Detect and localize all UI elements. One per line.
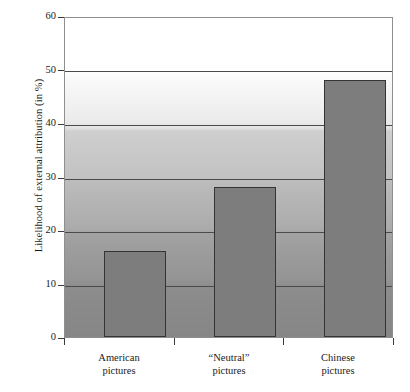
y-tick-label-40: 40 — [22, 117, 56, 128]
bar-0 — [104, 251, 166, 337]
y-tick-label-10: 10 — [22, 278, 56, 289]
y-tick-label-0: 0 — [22, 331, 56, 342]
x-tick-mark-1 — [174, 338, 175, 345]
bar-chart: Likelihood of external attribution (in %… — [0, 0, 410, 392]
y-tick-label-50: 50 — [22, 64, 56, 75]
y-tick-label-30: 30 — [22, 171, 56, 182]
x-category-line1-1: “Neutral” — [209, 352, 250, 363]
y-tick-label-20: 20 — [22, 224, 56, 235]
x-category-line2-2: pictures — [273, 364, 403, 377]
bar-2 — [324, 80, 386, 337]
x-tick-mark-0 — [64, 338, 65, 345]
x-category-label-2: Chinesepictures — [273, 351, 403, 377]
bar-1 — [214, 187, 276, 337]
gridline-50 — [65, 71, 392, 72]
x-tick-mark-3 — [393, 338, 394, 345]
y-tick-label-60: 60 — [22, 10, 56, 21]
y-axis-title: Likelihood of external attribution (in %… — [33, 16, 44, 316]
plot-area — [64, 17, 393, 338]
x-tick-mark-2 — [283, 338, 284, 345]
x-category-line1-0: American — [98, 352, 139, 363]
x-category-line1-2: Chinese — [321, 352, 355, 363]
